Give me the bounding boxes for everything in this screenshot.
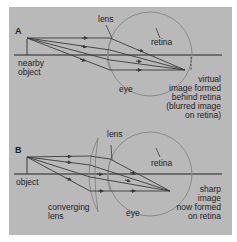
retina-label-b: retina xyxy=(151,159,172,168)
eye-label-b: eye xyxy=(126,209,140,218)
arrow-marker-b6 xyxy=(130,172,134,174)
retina-pointer-b xyxy=(156,148,160,157)
panel-a-letter: A xyxy=(15,27,22,36)
lens-label-a: lens xyxy=(98,15,114,24)
lens-pointer-a xyxy=(106,25,112,38)
panel-b-letter: B xyxy=(15,146,22,155)
image-label-a-5: on retina) xyxy=(185,111,221,120)
converging-lens xyxy=(89,138,98,212)
object-label-b: object xyxy=(16,178,39,187)
retina-label-a: retina xyxy=(151,38,172,47)
arrow-marker-a3 xyxy=(80,59,84,61)
eye-label-a: eye xyxy=(119,85,133,94)
lens-label-b: lens xyxy=(107,130,123,139)
object-label-a-2: object xyxy=(18,68,41,77)
arrow-marker-b4 xyxy=(97,174,101,175)
arrow-marker-a5 xyxy=(136,61,140,62)
arrow-marker-a4 xyxy=(138,50,142,51)
converging-lens-label-2: lens xyxy=(48,212,64,221)
arrow-marker-b3 xyxy=(66,178,70,180)
arrow-marker-b2 xyxy=(66,162,70,163)
arrow-marker-b7 xyxy=(125,180,129,181)
image-label-b-4: on retina xyxy=(188,212,221,221)
